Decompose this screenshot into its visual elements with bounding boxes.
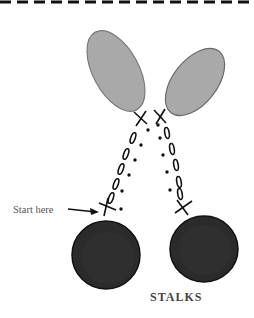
sc-stitch-icon	[99, 198, 116, 216]
cherry-left	[72, 221, 140, 289]
leaf-right	[154, 38, 237, 127]
cherry-right	[170, 216, 238, 282]
stalk-right	[154, 109, 192, 215]
stalk-left	[99, 111, 150, 216]
crochet-diagram	[0, 0, 254, 318]
sc-stitch-icon	[154, 109, 166, 124]
sc-stitch-icon	[175, 200, 192, 215]
start-here-label: Start here	[13, 204, 54, 215]
diagram-title: STALKS	[150, 290, 202, 305]
start-arrow-icon	[68, 208, 99, 215]
sc-stitch-icon	[134, 111, 147, 126]
leaf-left	[75, 21, 157, 120]
